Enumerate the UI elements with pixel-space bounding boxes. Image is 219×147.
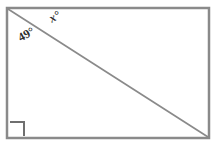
rectangle-diagonal-drawing [0, 0, 219, 147]
right-angle-marker-icon [10, 122, 24, 136]
diagonal-line [8, 9, 208, 137]
geometry-figure: x° 49° [0, 0, 219, 147]
